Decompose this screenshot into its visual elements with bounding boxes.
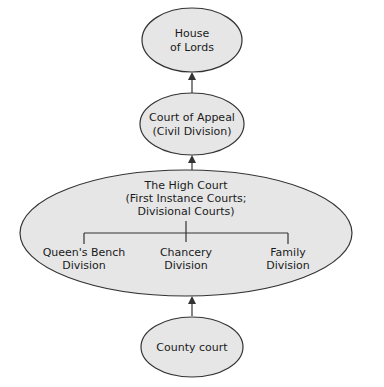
house-of-lords-label-2: of Lords [170,41,214,54]
node-court-of-appeal: Court of Appeal (Civil Division) [140,93,244,155]
arrow-high-to-appeal [188,155,196,170]
svg-text:Chancery: Chancery [160,246,213,259]
court-hierarchy-diagram: House of Lords Court of Appeal (Civil Di… [0,0,384,387]
node-high-court: The High Court (First Instance Courts; D… [20,170,352,296]
high-court-label-2: (First Instance Courts; [126,192,247,205]
court-of-appeal-label-2: (Civil Division) [152,125,231,138]
division-family: Family Division [266,246,310,272]
svg-text:Queen's Bench: Queen's Bench [43,246,126,259]
svg-text:Division: Division [164,259,208,272]
high-court-label-1: The High Court [144,179,229,192]
arrowhead-icon [188,296,196,304]
svg-text:Division: Division [266,259,310,272]
node-house-of-lords: House of Lords [142,8,242,72]
high-court-label-3: Divisional Courts) [137,205,234,218]
svg-text:Division: Division [62,259,106,272]
court-of-appeal-label-1: Court of Appeal [149,111,235,124]
node-county-court: County court [141,317,243,377]
arrow-appeal-to-lords [188,72,196,93]
county-court-label: County court [156,341,228,354]
arrowhead-icon [188,155,196,163]
division-chancery: Chancery Division [160,246,213,272]
arrowhead-icon [188,72,196,80]
arrow-county-to-high [188,296,196,316]
svg-text:Family: Family [270,246,306,259]
house-of-lords-label-1: House [175,27,210,40]
